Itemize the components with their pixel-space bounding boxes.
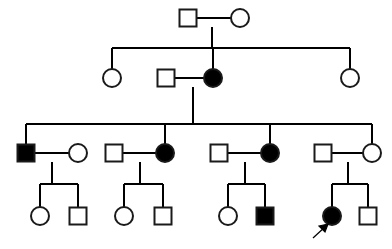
pedigree-chart xyxy=(0,0,392,249)
individual-IV-5-female-unaffected[interactable] xyxy=(219,207,237,225)
individual-II-4-female-unaffected[interactable] xyxy=(341,69,359,87)
individual-IV-8-male-unaffected[interactable] xyxy=(360,208,377,225)
individual-III-1-male-affected[interactable] xyxy=(18,145,35,162)
individual-I-1-male-unaffected[interactable] xyxy=(180,10,197,27)
individual-III-5-male-unaffected[interactable] xyxy=(211,145,228,162)
individual-IV-4-male-unaffected[interactable] xyxy=(155,208,172,225)
individual-II-1-female-unaffected[interactable] xyxy=(103,69,121,87)
individual-III-6-female-affected[interactable] xyxy=(261,144,279,162)
individual-IV-3-female-unaffected[interactable] xyxy=(115,207,133,225)
individual-IV-7-female-affected-proband[interactable] xyxy=(323,207,341,225)
individual-I-2-female-unaffected[interactable] xyxy=(231,9,249,27)
individual-III-8-female-unaffected[interactable] xyxy=(363,144,381,162)
individual-II-2-male-unaffected[interactable] xyxy=(158,70,175,87)
individual-IV-2-male-unaffected[interactable] xyxy=(70,208,87,225)
individual-III-7-male-unaffected[interactable] xyxy=(315,145,332,162)
individual-II-3-female-affected[interactable] xyxy=(204,69,222,87)
pedigree-canvas xyxy=(0,0,392,249)
proband-arrow-icon xyxy=(313,224,328,238)
individual-IV-6-male-affected[interactable] xyxy=(257,208,274,225)
individual-III-2-female-unaffected[interactable] xyxy=(69,144,87,162)
individual-III-4-female-affected[interactable] xyxy=(156,144,174,162)
individual-IV-1-female-unaffected[interactable] xyxy=(31,207,49,225)
individual-III-3-male-unaffected[interactable] xyxy=(106,145,123,162)
